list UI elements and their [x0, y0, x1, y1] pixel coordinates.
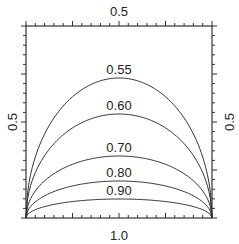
- top-axis-label: 0.5: [110, 4, 128, 19]
- curve-labels: 0.550.600.700.800.90: [106, 62, 131, 198]
- right-axis-label: 0.5: [222, 113, 237, 131]
- curve-label-0.60: 0.60: [106, 98, 131, 113]
- curve-label-0.80: 0.80: [106, 165, 131, 180]
- curve-label-0.70: 0.70: [106, 140, 131, 155]
- curve-label-0.90: 0.90: [106, 183, 131, 198]
- curve-label-0.55: 0.55: [106, 62, 131, 77]
- contour-chart: 0.550.600.700.800.90 0.5 1.0 0.5 0.5: [0, 0, 239, 244]
- bottom-axis-label: 1.0: [110, 228, 128, 243]
- left-axis-label: 0.5: [5, 113, 20, 131]
